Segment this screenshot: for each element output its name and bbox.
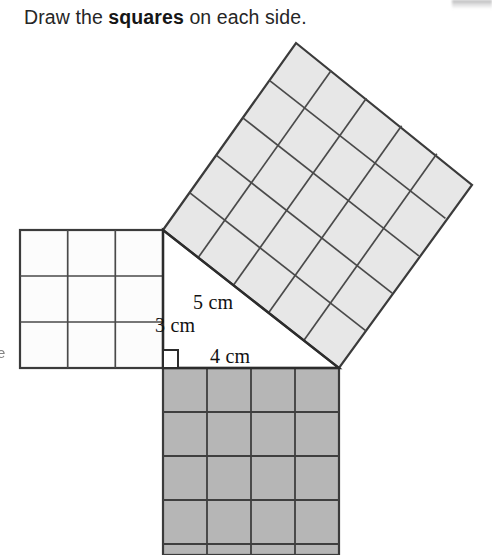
worksheet-page: Draw the squares on each side. e — [0, 0, 492, 555]
square-on-horizontal-leg — [163, 368, 339, 555]
pythagoras-figure — [0, 0, 492, 555]
vertical-leg-square-outline — [20, 230, 163, 368]
label-horizontal-leg: 4 cm — [210, 345, 250, 368]
label-vertical-leg: 3 cm — [155, 314, 195, 337]
square-on-hypotenuse — [163, 43, 472, 368]
square-on-vertical-leg — [20, 230, 163, 368]
figure-svg — [0, 0, 492, 555]
hypotenuse-square-outline — [163, 43, 472, 368]
label-hypotenuse: 5 cm — [193, 291, 233, 314]
right-angle-marker — [163, 350, 178, 368]
right-angle-square — [163, 350, 178, 368]
